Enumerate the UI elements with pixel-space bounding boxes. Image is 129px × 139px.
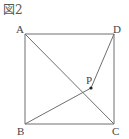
label-p: P [86, 75, 92, 86]
label-a: A [16, 24, 24, 35]
label-c: C [112, 126, 119, 137]
label-b: B [17, 126, 24, 137]
diagonal-ac [25, 34, 114, 124]
point-p-marker [89, 86, 92, 89]
square-diagram [0, 0, 129, 139]
label-d: D [113, 24, 121, 35]
segment-dp [91, 34, 114, 88]
segment-bp [25, 88, 91, 124]
